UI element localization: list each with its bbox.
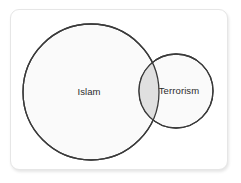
diagram-canvas: Islam Terrorism bbox=[0, 0, 241, 183]
set-label-terrorism: Terrorism bbox=[159, 85, 199, 96]
venn-diagram: Islam Terrorism bbox=[11, 10, 228, 170]
set-label-islam: Islam bbox=[77, 86, 100, 97]
diagram-card: Islam Terrorism bbox=[10, 9, 228, 170]
